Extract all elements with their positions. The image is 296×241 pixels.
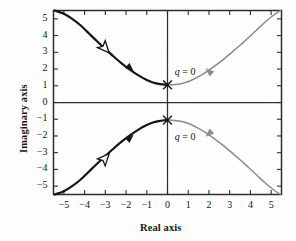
- y-tick-label: 4: [20, 29, 48, 40]
- root-locus-figure: Imaginary axis Real axis −5−4−3−2−101234…: [0, 0, 296, 241]
- locus-branch-upper-left-branch: [55, 11, 168, 85]
- locus-branch-lower-left-branch: [55, 120, 168, 194]
- y-tick-label: −4: [20, 162, 48, 173]
- y-tick-label: 2: [20, 62, 48, 73]
- y-tick-label: 0: [20, 96, 48, 107]
- y-tick-label: 1: [20, 79, 48, 90]
- x-tick-label: 5: [256, 199, 286, 210]
- annotation-q-equals-zero-1: q = 0: [175, 131, 196, 142]
- y-tick-label: −5: [20, 179, 48, 190]
- y-tick-label: 3: [20, 45, 48, 56]
- y-tick-label: −3: [20, 146, 48, 157]
- y-tick-label: −1: [20, 112, 48, 123]
- y-tick-label: −2: [20, 129, 48, 140]
- direction-arrow-hollow-1: [97, 150, 113, 166]
- annotation-q-equals-zero-0: q = 0: [175, 66, 196, 77]
- y-tick-label: 5: [20, 12, 48, 23]
